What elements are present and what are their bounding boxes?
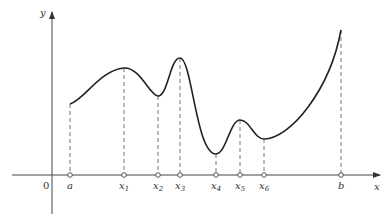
point-label-x6: x6 xyxy=(259,180,270,193)
origin-label: 0 xyxy=(43,180,49,191)
point-label-x3: x3 xyxy=(175,180,186,193)
point-label-b: b xyxy=(338,180,344,191)
point-label-x5: x5 xyxy=(235,180,246,193)
point-label-x2: x2 xyxy=(153,180,164,193)
x-axis-label: x xyxy=(374,181,380,192)
y-axis-label: y xyxy=(39,7,46,18)
point-label-x1: x1 xyxy=(119,180,129,193)
point-label-x4: x4 xyxy=(211,180,221,193)
function-curve xyxy=(70,30,341,154)
point-label-a: a xyxy=(67,180,73,191)
function-graph-diagram: y x 0 a x1 x2 x3 x4 x5 x6 b xyxy=(0,0,392,221)
dashed-guides xyxy=(70,30,341,175)
